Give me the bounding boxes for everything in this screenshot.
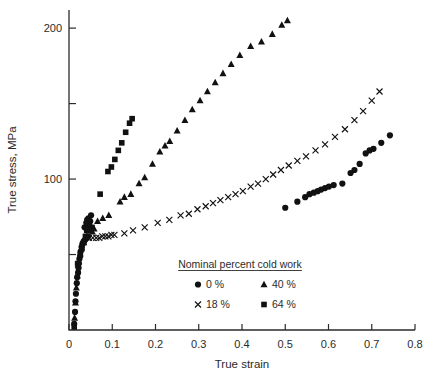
data-point bbox=[142, 224, 148, 230]
data-point bbox=[136, 180, 143, 187]
data-point bbox=[370, 146, 376, 152]
data-point bbox=[294, 158, 300, 164]
data-point bbox=[247, 42, 254, 49]
legend-label: 0 % bbox=[206, 278, 224, 290]
data-point bbox=[332, 134, 338, 140]
x-tick-label: 0.7 bbox=[364, 338, 379, 350]
data-point bbox=[71, 314, 78, 321]
data-point bbox=[351, 167, 357, 173]
data-point bbox=[294, 199, 300, 205]
x-tick-label: 0.6 bbox=[321, 338, 336, 350]
data-point bbox=[83, 234, 89, 240]
y-tick-label: 100 bbox=[44, 173, 62, 185]
data-point bbox=[286, 162, 292, 168]
legend-label: 40 % bbox=[272, 278, 296, 290]
data-point bbox=[195, 302, 201, 308]
x-tick-label: 0.1 bbox=[105, 338, 120, 350]
data-point bbox=[255, 181, 261, 187]
data-point bbox=[102, 233, 108, 239]
data-point bbox=[203, 203, 209, 209]
series-40- bbox=[71, 17, 291, 321]
legend-label: 18 % bbox=[206, 298, 230, 310]
series-0- bbox=[71, 132, 393, 327]
data-point bbox=[331, 182, 337, 188]
data-point bbox=[263, 176, 269, 182]
data-point bbox=[236, 51, 243, 58]
data-point bbox=[178, 212, 184, 218]
data-point bbox=[79, 246, 85, 252]
legend-item-64-[interactable]: 64 % bbox=[261, 298, 296, 310]
data-point bbox=[197, 97, 204, 104]
data-point bbox=[219, 70, 226, 77]
data-point bbox=[228, 61, 235, 68]
x-tick-label: 0.5 bbox=[278, 338, 293, 350]
x-tick-label: 0.4 bbox=[234, 338, 249, 350]
data-point bbox=[73, 291, 79, 297]
data-point bbox=[71, 324, 77, 330]
data-point bbox=[112, 157, 118, 163]
data-point bbox=[351, 117, 357, 123]
data-point bbox=[261, 302, 267, 308]
data-point bbox=[204, 88, 211, 95]
data-point bbox=[278, 167, 284, 173]
y-tick-label: 200 bbox=[44, 22, 62, 34]
data-point bbox=[378, 140, 384, 146]
data-point bbox=[258, 38, 265, 45]
data-point bbox=[194, 206, 200, 212]
series-18- bbox=[86, 89, 383, 241]
data-point bbox=[89, 225, 95, 231]
data-point bbox=[269, 30, 276, 37]
data-point bbox=[81, 240, 87, 246]
data-point bbox=[99, 215, 106, 222]
legend-item-18-[interactable]: 18 % bbox=[195, 298, 230, 310]
data-point bbox=[248, 184, 254, 190]
data-point bbox=[130, 227, 136, 233]
y-axis-title: True stress, MPa bbox=[6, 126, 18, 214]
data-point bbox=[189, 106, 196, 113]
data-point bbox=[111, 232, 117, 238]
data-point bbox=[155, 220, 161, 226]
data-point bbox=[149, 160, 156, 167]
data-point bbox=[105, 211, 112, 218]
data-point bbox=[369, 98, 375, 104]
data-point bbox=[217, 197, 223, 203]
data-point bbox=[313, 147, 319, 153]
data-point bbox=[322, 141, 328, 147]
x-tick-label: 0.3 bbox=[191, 338, 206, 350]
data-point bbox=[156, 148, 163, 155]
data-point bbox=[129, 116, 135, 122]
data-point bbox=[377, 89, 383, 95]
figure-root: 00.10.20.30.40.50.60.70.8100200True stra… bbox=[0, 0, 434, 375]
data-point bbox=[166, 138, 173, 145]
data-point bbox=[93, 235, 99, 241]
data-point bbox=[75, 261, 81, 267]
data-point bbox=[225, 194, 231, 200]
x-tick-label: 0.8 bbox=[407, 338, 422, 350]
data-point bbox=[121, 193, 128, 200]
data-point bbox=[181, 116, 188, 123]
data-point bbox=[116, 148, 122, 154]
data-point bbox=[186, 211, 192, 217]
data-point bbox=[270, 172, 276, 178]
data-point bbox=[357, 161, 363, 167]
data-point bbox=[303, 153, 309, 159]
data-point bbox=[195, 281, 201, 287]
data-point bbox=[109, 164, 115, 170]
x-tick-label: 0 bbox=[66, 338, 72, 350]
data-point bbox=[141, 174, 148, 181]
data-point bbox=[240, 188, 246, 194]
data-point bbox=[212, 79, 219, 86]
legend-label: 64 % bbox=[272, 298, 296, 310]
data-point bbox=[342, 126, 348, 132]
data-point bbox=[123, 129, 129, 135]
data-point bbox=[387, 132, 393, 138]
data-point bbox=[339, 180, 345, 186]
data-point bbox=[166, 217, 172, 223]
legend-item-0-[interactable]: 0 % bbox=[195, 278, 224, 290]
data-point bbox=[282, 205, 288, 211]
legend-item-40-[interactable]: 40 % bbox=[261, 278, 296, 290]
series-64- bbox=[71, 116, 135, 330]
data-point bbox=[233, 191, 239, 197]
data-point bbox=[284, 17, 291, 24]
data-point bbox=[210, 200, 216, 206]
